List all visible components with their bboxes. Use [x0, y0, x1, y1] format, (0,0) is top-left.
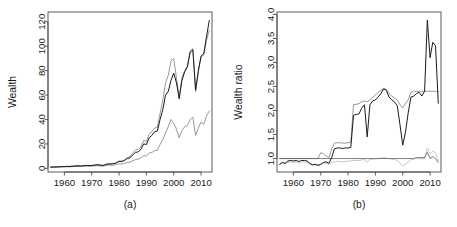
- x-tick-label: 1980: [337, 177, 358, 188]
- panel-caption: (a): [124, 199, 137, 210]
- panel-a-wealth: 020406080100120196019701980199020002010W…: [0, 0, 228, 227]
- y-tick-label: 40: [36, 114, 47, 125]
- y-tick-label: 1.0: [265, 152, 276, 165]
- y-tick-label: 3.0: [265, 56, 276, 69]
- y-tick-label: 1.5: [265, 128, 276, 141]
- y-tick-label: 3.5: [265, 32, 276, 45]
- series-line-strategy-gray-high: [51, 30, 210, 167]
- series-line-strategy-dark: [51, 21, 210, 168]
- y-tick-label: 120: [36, 14, 47, 30]
- x-tick-label: 1980: [108, 177, 129, 188]
- x-tick-label: 2010: [419, 177, 440, 188]
- plot-frame: [48, 12, 212, 172]
- y-tick-label: 80: [36, 65, 47, 76]
- x-tick-label: 1970: [310, 177, 331, 188]
- panel-caption: (b): [353, 199, 366, 210]
- panel-b-wealth-ratio: 1.01.52.02.53.03.54.01960197019801990200…: [228, 0, 457, 227]
- panel-a-plot: 020406080100120196019701980199020002010W…: [0, 0, 228, 227]
- series-line-ratio-light-lower: [280, 148, 439, 166]
- x-tick-label: 1960: [283, 177, 304, 188]
- y-tick-label: 100: [36, 38, 47, 54]
- y-tick-label: 0: [36, 166, 47, 171]
- series-line-ratio-dark: [280, 20, 439, 165]
- series-line-ratio-gray-upper: [280, 88, 439, 158]
- x-tick-label: 2010: [190, 177, 211, 188]
- y-tick-label: 60: [36, 90, 47, 101]
- x-tick-label: 2000: [163, 177, 184, 188]
- y-tick-label: 2.0: [265, 104, 276, 117]
- y-tick-label: 20: [36, 139, 47, 150]
- x-tick-label: 1990: [136, 177, 157, 188]
- y-axis-title: Wealth: [7, 76, 18, 108]
- y-tick-label: 2.5: [265, 80, 276, 93]
- x-tick-label: 2000: [392, 177, 413, 188]
- y-tick-label: 4.0: [265, 8, 276, 21]
- y-axis-title: Wealth ratio: [233, 64, 244, 119]
- panel-b-plot: 1.01.52.02.53.03.54.01960197019801990200…: [228, 0, 457, 227]
- figure-wealth-panels: 020406080100120196019701980199020002010W…: [0, 0, 457, 227]
- x-tick-label: 1970: [81, 177, 102, 188]
- series-line-benchmark-gray-low: [51, 111, 210, 167]
- x-tick-label: 1990: [365, 177, 386, 188]
- x-tick-label: 1960: [54, 177, 75, 188]
- plot-frame: [277, 12, 441, 172]
